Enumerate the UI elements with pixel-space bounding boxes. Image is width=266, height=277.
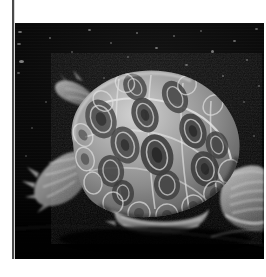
turtle-illustration [15,23,264,259]
turtle-photograph [15,23,264,259]
substrate-shadow [15,227,264,251]
carapace [69,69,243,227]
document-page [0,0,266,277]
bottom-margin [0,259,266,277]
top-margin [0,0,266,23]
